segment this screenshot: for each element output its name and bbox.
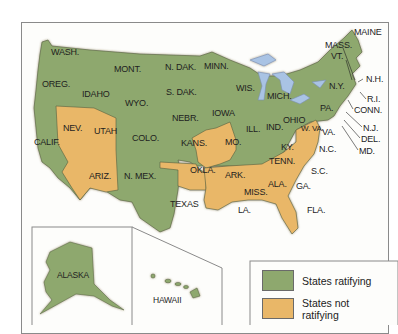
legend-label-not-ratifying-1: States not <box>302 298 349 309</box>
legend-label-not-ratifying-2: ratifying <box>302 310 339 321</box>
legend-label-ratifying: States ratifying <box>302 276 371 287</box>
legend-swatch-ratifying <box>262 270 294 291</box>
legend-swatch-not-ratifying <box>262 298 294 319</box>
